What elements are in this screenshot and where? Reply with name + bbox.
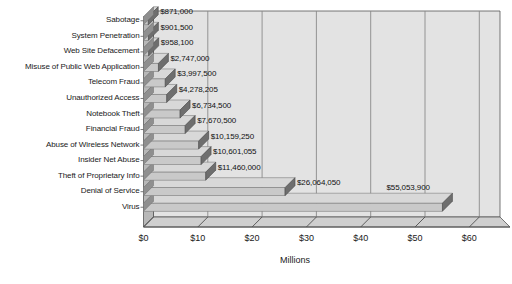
value-label: $901,500 [160, 23, 193, 32]
bar-front-face [144, 157, 202, 165]
x-tick-label: $40 [341, 233, 381, 243]
axis-floor [144, 217, 511, 227]
x-tick-label: $50 [395, 233, 435, 243]
category-label: Financial Fraud [86, 124, 140, 133]
bar-front-face [144, 172, 206, 180]
value-label: $2,747,000 [170, 54, 209, 63]
bar-front-face [144, 141, 199, 149]
x-tick-label: $20 [232, 233, 272, 243]
x-tick-label: $60 [449, 233, 489, 243]
value-label: $11,460,000 [218, 163, 261, 172]
category-label: Telecom Fraud [88, 77, 140, 86]
value-label: $10,601,055 [213, 147, 256, 156]
category-label: Web Site Defacement [64, 46, 140, 55]
x-axis-title: Millions [245, 255, 345, 265]
category-label: Notebook Theft [86, 109, 139, 118]
value-label: $7,670,500 [197, 116, 236, 125]
bar-chart: SabotageSystem PenetrationWeb Site Defac… [0, 0, 512, 284]
value-label: $871,000 [160, 7, 193, 16]
value-label: $55,053,900 [386, 183, 429, 192]
bar-front-face [144, 188, 286, 196]
value-label: $26,064,050 [297, 178, 340, 187]
category-label: Misuse of Public Web Application [25, 62, 140, 71]
value-label: $4,278,205 [179, 85, 218, 94]
category-label: System Penetration [71, 31, 139, 40]
value-label: $10,159,250 [211, 132, 254, 141]
category-label: Unauthorized Access [66, 93, 139, 102]
value-label: $6,734,500 [192, 101, 231, 110]
category-label: Insider Net Abuse [78, 155, 139, 164]
x-tick-label: $10 [178, 233, 218, 243]
value-label: $958,100 [161, 38, 194, 47]
x-tick-label: $0 [124, 233, 164, 243]
category-label: Theft of Proprietary Info [58, 171, 140, 180]
category-label: Sabotage [106, 15, 139, 24]
category-label: Denial of Service [81, 186, 140, 195]
value-label: $3,997,500 [177, 69, 216, 78]
x-tick-label: $30 [286, 233, 326, 243]
bar-front-face [144, 203, 443, 211]
category-label: Virus [122, 202, 140, 211]
category-label: Abuse of Wireless Network [46, 140, 140, 149]
